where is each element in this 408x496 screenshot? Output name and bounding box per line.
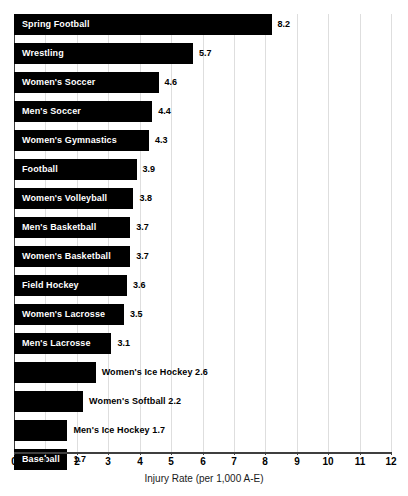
x-axis-tick [14,452,15,455]
bar[interactable] [14,420,67,441]
plot-area: Spring Football8.2Wrestling5.7Women's So… [14,14,391,452]
bar-category-label: Field Hockey [22,275,79,296]
bar-category-label: Spring Football [22,14,90,35]
bar-row[interactable]: Women's Gymnastics4.3 [14,130,391,151]
x-axis-tick [297,452,298,455]
bar-row[interactable]: Wrestling5.7 [14,43,391,64]
bar-value-label: 3.7 [136,217,149,238]
bar-row[interactable]: Women's Volleyball3.8 [14,188,391,209]
x-axis-title: Injury Rate (per 1,000 A-E) [0,473,408,484]
bar-series: Spring Football8.2Wrestling5.7Women's So… [14,14,391,452]
x-axis-tick [234,452,235,455]
x-axis-tick [140,452,141,455]
x-axis-tick [391,452,392,455]
x-axis-tick [108,452,109,455]
bar-value-label: 3.6 [133,275,146,296]
bar-row[interactable]: Men's Ice Hockey 1.7 [14,420,391,441]
x-axis-tick-label: 2 [65,456,89,467]
bar-row[interactable]: Field Hockey3.6 [14,275,391,296]
bar[interactable] [14,391,83,412]
gridline-12 [391,14,392,452]
x-axis-tick-label: 3 [96,456,120,467]
bar-value-label: 3.1 [117,333,130,354]
bar-value-label: 4.4 [158,101,171,122]
x-axis-tick [203,452,204,455]
bar-row[interactable]: Men's Basketball3.7 [14,217,391,238]
bar-category-value-label: Women's Ice Hockey 2.6 [102,362,208,383]
x-axis-tick-label: 5 [159,456,183,467]
bar-row[interactable]: Women's Basketball3.7 [14,246,391,267]
bar-category-label: Men's Lacrosse [22,333,91,354]
bar-row[interactable]: Women's Soccer4.6 [14,72,391,93]
bar-value-label: 3.7 [136,246,149,267]
bar-category-value-label: Men's Ice Hockey 1.7 [73,420,165,441]
bar-category-label: Men's Basketball [22,217,96,238]
bar-value-label: 4.6 [165,72,178,93]
bar-row[interactable]: Women's Softball 2.2 [14,391,391,412]
x-axis-tick-label: 6 [191,456,215,467]
x-axis-tick [360,452,361,455]
x-axis-tick [265,452,266,455]
x-axis-tick [171,452,172,455]
bar-row[interactable]: Spring Football8.2 [14,14,391,35]
x-axis-tick-label: 1 [33,456,57,467]
x-axis-tick-label: 9 [285,456,309,467]
x-axis-tick-label: 11 [348,456,372,467]
bar-category-label: Women's Basketball [22,246,111,267]
injury-rate-bar-chart: Spring Football8.2Wrestling5.7Women's So… [0,0,408,496]
bar-row[interactable]: Women's Lacrosse3.5 [14,304,391,325]
x-axis-tick-label: 4 [128,456,152,467]
x-axis-tick [45,452,46,455]
x-axis-tick-label: 8 [253,456,277,467]
bar-category-value-label: Women's Softball 2.2 [89,391,181,412]
x-axis-tick-label: 7 [222,456,246,467]
bar[interactable] [14,362,96,383]
bar-value-label: 3.5 [130,304,143,325]
bar-row[interactable]: Football3.9 [14,159,391,180]
bar-row[interactable]: Women's Ice Hockey 2.6 [14,362,391,383]
bar-value-label: 8.2 [278,14,291,35]
bar-row[interactable]: Men's Lacrosse3.1 [14,333,391,354]
x-axis-tick-label: 10 [316,456,340,467]
x-axis-tick-label: 0 [2,456,26,467]
x-axis-tick-label: 12 [379,456,403,467]
bar-category-label: Football [22,159,58,180]
bar-value-label: 4.3 [155,130,168,151]
bar-value-label: 3.9 [143,159,156,180]
chart-title [0,0,408,7]
bar-value-label: 5.7 [199,43,212,64]
bar-category-label: Men's Soccer [22,101,81,122]
bar-category-label: Women's Soccer [22,72,95,93]
bar-category-label: Women's Lacrosse [22,304,105,325]
bar-value-label: 3.8 [139,188,152,209]
bar-row[interactable]: Men's Soccer4.4 [14,101,391,122]
x-axis-tick [77,452,78,455]
bar-category-label: Wrestling [22,43,64,64]
bar-category-label: Women's Gymnastics [22,130,117,151]
x-axis-tick [328,452,329,455]
bar-category-label: Women's Volleyball [22,188,107,209]
